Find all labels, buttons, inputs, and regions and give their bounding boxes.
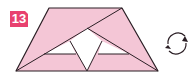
turn-over-icon — [165, 33, 188, 54]
origami-fold-diagram — [0, 0, 196, 80]
